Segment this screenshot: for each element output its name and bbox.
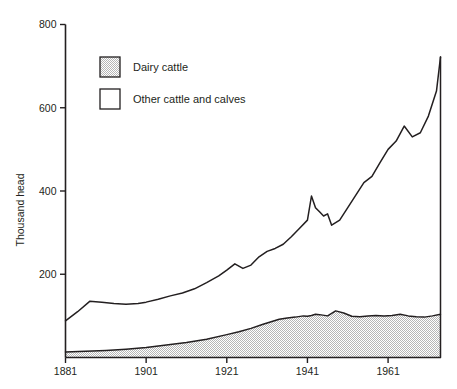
- chart-legend: Dairy cattleOther cattle and calves: [100, 57, 246, 109]
- legend-label-1: Dairy cattle: [133, 61, 188, 73]
- axes: [66, 25, 441, 358]
- y-tick-label: 800: [39, 18, 57, 30]
- chart-canvas: 20040060080018811901192119411961 Dairy c…: [0, 0, 457, 389]
- cattle-numbers-chart: 20040060080018811901192119411961 Dairy c…: [0, 0, 457, 389]
- y-axis-title: Thousand head: [14, 173, 26, 246]
- series-lines: [66, 57, 441, 358]
- x-tick-label: 1901: [134, 365, 158, 377]
- total-cattle-line: [66, 57, 441, 321]
- y-axis-title-text: Thousand head: [14, 173, 26, 246]
- y-tick-label: 200: [39, 268, 57, 280]
- x-tick-label: 1921: [215, 365, 239, 377]
- y-tick-label: 400: [39, 185, 57, 197]
- legend-label-2: Other cattle and calves: [133, 93, 246, 105]
- x-tick-label: 1941: [296, 365, 320, 377]
- legend-swatch-2: [100, 89, 120, 109]
- x-tick-label: 1961: [376, 365, 400, 377]
- y-tick-label: 600: [39, 102, 57, 114]
- legend-swatch-1: [100, 57, 120, 77]
- dairy-cattle-area: [66, 311, 441, 358]
- x-tick-label: 1881: [54, 365, 78, 377]
- series-areas: [66, 311, 441, 358]
